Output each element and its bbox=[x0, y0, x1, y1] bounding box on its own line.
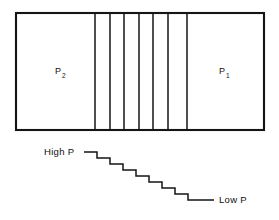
low-pressure-label: Low P bbox=[219, 194, 247, 205]
figure-canvas: P 2 P 1 High P Low P bbox=[0, 0, 279, 220]
high-pressure-label: High P bbox=[44, 146, 74, 157]
chamber-label-p2-subscript: 2 bbox=[62, 72, 66, 79]
chamber-label-p2-base: P bbox=[55, 66, 61, 76]
chamber-label-p1-base: P bbox=[219, 66, 225, 76]
chamber-label-p1-subscript: 1 bbox=[226, 72, 230, 79]
pressure-cascade-figure: P 2 P 1 High P Low P bbox=[0, 0, 279, 220]
